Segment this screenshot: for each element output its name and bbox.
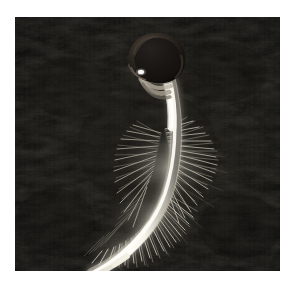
seedling-photo-illustration <box>15 17 280 271</box>
photograph <box>15 17 280 271</box>
image-canvas <box>0 0 294 284</box>
photo-grain <box>15 17 280 271</box>
